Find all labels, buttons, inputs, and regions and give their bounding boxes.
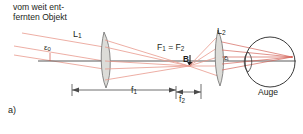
- focal-points-label: F1 = F2: [157, 43, 184, 53]
- epsilon-zero-subscript: 0: [48, 46, 51, 52]
- incoming-ray-top: [22, 33, 104, 47]
- lens-2-eyepiece: [215, 30, 223, 86]
- object-caption: vom weit ent- fernten Objekt: [13, 3, 67, 22]
- image-point-label: B: [183, 55, 189, 64]
- diverging-ray-bottom: [189, 66, 218, 76]
- dimension-f2-arrow-right: [194, 90, 201, 95]
- focal-length-2-label: f2: [179, 95, 185, 105]
- focus-equals-sign: =: [166, 42, 176, 52]
- retina-focus-point: [291, 56, 293, 58]
- optics-ray-diagram-figure: vom weit ent- fernten Objekt L1 L2 ε0 ε …: [0, 0, 303, 134]
- lens-2-subscript: 2: [222, 29, 226, 36]
- panel-label: a): [8, 105, 16, 115]
- angle-epsilon-zero-label: ε0: [44, 44, 51, 53]
- eye-label: Auge: [258, 88, 278, 98]
- exit-ray-1: [222, 42, 292, 57]
- lens-2-label: L2: [217, 26, 226, 37]
- lens-1-label: L1: [73, 29, 82, 40]
- diverging-ray-upper: [189, 48, 217, 66]
- incoming-ray-bottom: [14, 55, 104, 69]
- incoming-ray-bundle: [14, 33, 104, 69]
- dimension-f1-arrow-right: [169, 88, 176, 93]
- object-caption-line2: fernten Objekt: [13, 12, 67, 22]
- dimension-f1: [72, 84, 176, 96]
- incoming-ray-middle: [14, 46, 104, 61]
- exit-ray-2: [222, 50, 292, 57]
- converging-ray-bottom: [105, 66, 189, 80]
- angle-epsilon-label: ε: [224, 54, 227, 62]
- diverging-ray-bundle: [189, 38, 219, 76]
- focal-length-1-label: f1: [131, 86, 137, 96]
- exit-ray-5: [222, 57, 292, 70]
- exit-ray-bundle: [222, 42, 292, 70]
- object-caption-line1: vom weit ent-: [13, 2, 64, 12]
- f1-subscript: 1: [133, 88, 137, 95]
- dimension-f1-arrow-left: [72, 88, 79, 93]
- f2-subscript: 2: [181, 97, 185, 104]
- lens-1-subscript: 1: [78, 32, 82, 39]
- eye-outline: [245, 37, 295, 87]
- focus-f2-subscript: 2: [181, 45, 185, 52]
- converging-ray-lower: [105, 66, 189, 69]
